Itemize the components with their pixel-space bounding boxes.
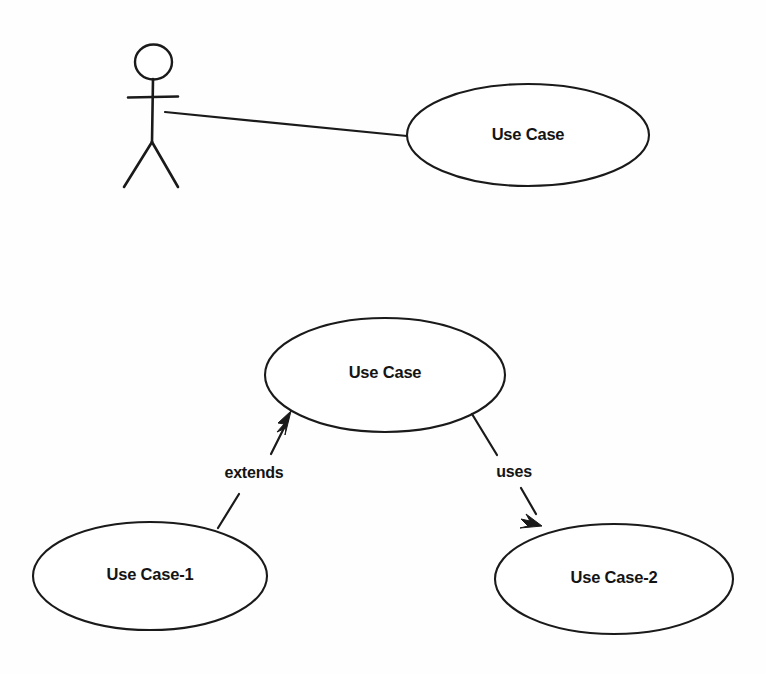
use-case-top-label: Use Case [492,125,565,143]
actor-left-leg-line [124,142,152,187]
extends-label: extends [224,464,283,481]
actor-right-leg-line [152,142,178,187]
uses-relationship[interactable]: uses [472,414,542,528]
use-case-top[interactable]: Use Case [407,84,649,186]
diagram-surface: Use Case Use Case Use Case-1 Use Case-2 … [0,0,766,674]
actor-arms-line [128,97,178,98]
uses-line-upper [472,414,497,455]
use-case-middle-label: Use Case [349,363,422,381]
use-case-1-label: Use Case-1 [107,565,194,583]
uses-line-lower [521,488,536,514]
actor-head-icon [135,45,172,80]
actor-stick-figure[interactable] [124,45,178,188]
extends-arrowhead-icon [277,411,291,435]
use-case-2[interactable]: Use Case-2 [495,524,733,634]
actor-body-line [152,79,153,142]
uses-label: uses [496,463,532,480]
extends-relationship[interactable]: extends [218,411,291,528]
use-case-middle[interactable]: Use Case [265,318,505,432]
use-case-diagram-canvas: Use Case Use Case Use Case-1 Use Case-2 … [0,0,766,674]
use-case-1[interactable]: Use Case-1 [33,522,267,630]
extends-line-lower [218,494,239,528]
association-actor-usecase-line[interactable] [165,112,407,136]
uses-arrowhead-icon [520,514,542,528]
use-case-2-label: Use Case-2 [571,568,658,586]
